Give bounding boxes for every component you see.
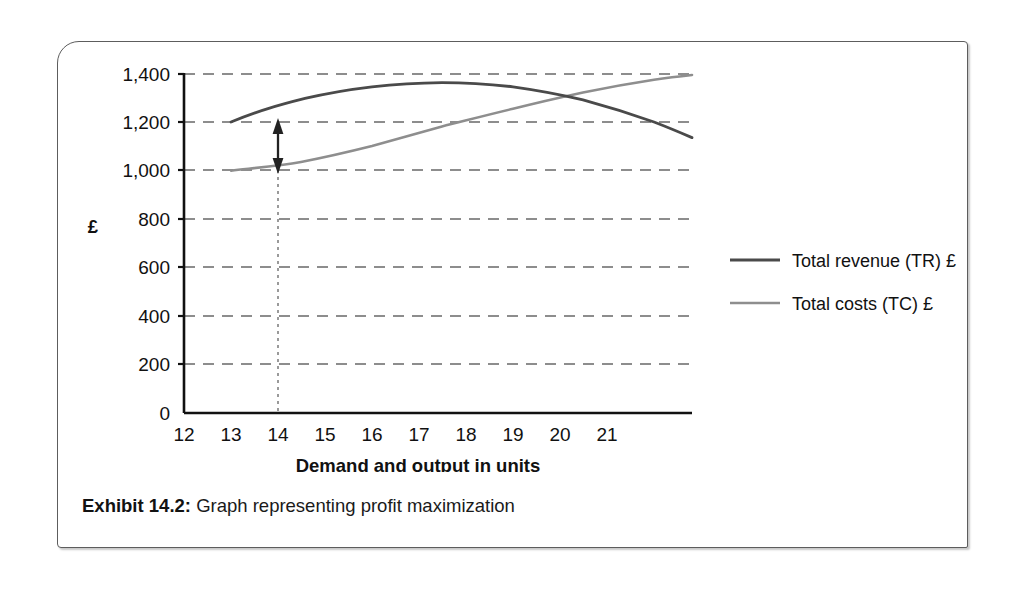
x-tick-label-14: 14 [267,424,289,445]
gridlines-horizontal [184,74,692,364]
y-tick-label-600: 600 [138,257,170,278]
x-tick-label-17: 17 [408,424,429,445]
y-tick-label-1200: 1,200 [122,112,170,133]
y-axis-title: £ [88,216,99,237]
x-tick-label-18: 18 [455,424,476,445]
x-tick-label-12: 12 [173,424,194,445]
x-axis-title: Demand and output in units [296,455,541,472]
exhibit-frame: 1,400 1,200 1,000 800 600 400 200 0 £ 12… [57,41,968,548]
legend-label-total-costs: Total costs (TC) £ [792,294,933,314]
y-tick-label-1000: 1,000 [122,160,170,181]
x-tick-label-15: 15 [314,424,335,445]
y-tick-label-200: 200 [138,354,170,375]
y-tick-label-800: 800 [138,209,170,230]
total-revenue-curve [231,83,692,138]
profit-maximization-chart: 1,400 1,200 1,000 800 600 400 200 0 £ 12… [58,42,969,472]
chart-legend: Total revenue (TR) £ Total costs (TC) £ [730,251,956,314]
y-tick-label-1400: 1,400 [122,64,170,85]
x-tick-label-21: 21 [596,424,617,445]
y-tick-label-0: 0 [159,403,170,424]
page-canvas: 1,400 1,200 1,000 800 600 400 200 0 £ 12… [0,0,1028,591]
x-tick-label-16: 16 [361,424,382,445]
x-tick-label-20: 20 [549,424,570,445]
x-tick-label-19: 19 [502,424,523,445]
legend-label-total-revenue: Total revenue (TR) £ [792,251,956,271]
profit-gap-arrowhead-up [273,118,284,134]
caption-text: Graph representing profit maximization [196,495,515,516]
exhibit-caption: Exhibit 14.2: Graph representing profit … [82,494,942,519]
chart-plot-area: 1,400 1,200 1,000 800 600 400 200 0 £ 12… [58,42,969,472]
y-tick-label-400: 400 [138,306,170,327]
caption-label: Exhibit 14.2: [82,495,191,516]
x-tick-label-13: 13 [220,424,241,445]
